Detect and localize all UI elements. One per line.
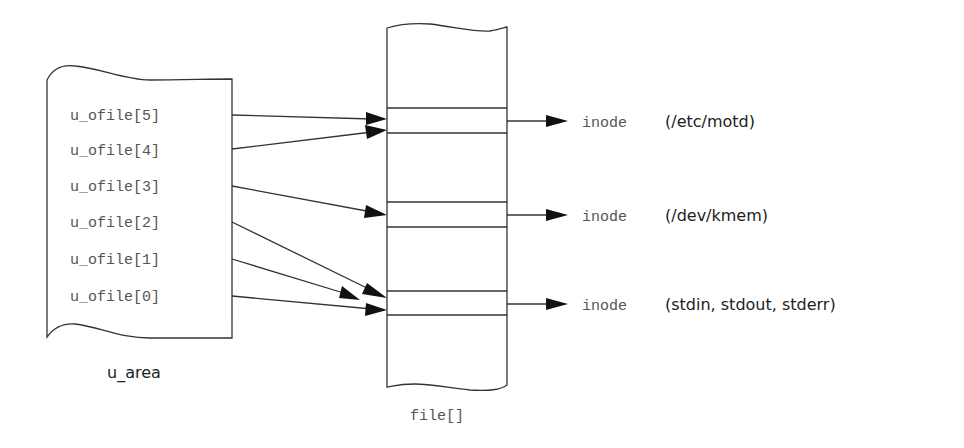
file-descriptor-diagram: u_ofile[5] u_ofile[4] u_ofile[3] u_ofile…	[0, 0, 964, 448]
arrowhead-icon	[365, 303, 387, 316]
svg-text:(/etc/motd): (/etc/motd)	[665, 112, 755, 131]
svg-text:(/dev/kmem): (/dev/kmem)	[665, 206, 768, 225]
u-ofile-2: u_ofile[2]	[70, 215, 160, 232]
svg-text:inode: inode	[582, 298, 627, 315]
arrowhead-icon	[366, 112, 387, 125]
arrowhead-icon	[362, 283, 387, 298]
arrowhead-icon	[339, 286, 360, 300]
inode-label-stdio: inode (stdin, stdout, stderr)	[582, 295, 836, 315]
u-area-label: u_area	[107, 363, 161, 383]
u-ofile-0: u_ofile[0]	[70, 289, 160, 306]
inode-label-motd: inode (/etc/motd)	[582, 112, 755, 132]
inode-arrows	[507, 115, 568, 310]
u-ofile-4: u_ofile[4]	[70, 143, 160, 160]
u-ofile-5: u_ofile[5]	[70, 108, 160, 125]
arrowhead-icon	[364, 205, 387, 218]
u-area-entries: u_ofile[5] u_ofile[4] u_ofile[3] u_ofile…	[70, 108, 160, 306]
ofile-arrows	[232, 112, 387, 316]
arrowhead-icon	[365, 125, 387, 139]
inode-label-kmem: inode (/dev/kmem)	[582, 206, 768, 226]
svg-text:inode: inode	[582, 209, 627, 226]
arrowhead-icon	[546, 115, 568, 127]
arrowhead-icon	[546, 209, 568, 221]
arrowhead-icon	[546, 298, 568, 310]
svg-text:(stdin, stdout, stderr): (stdin, stdout, stderr)	[665, 295, 836, 314]
u-ofile-3: u_ofile[3]	[70, 179, 160, 196]
u-ofile-1: u_ofile[1]	[70, 252, 160, 269]
file-table-label: file[]	[410, 408, 464, 425]
svg-text:inode: inode	[582, 115, 627, 132]
file-table-box	[387, 24, 507, 391]
